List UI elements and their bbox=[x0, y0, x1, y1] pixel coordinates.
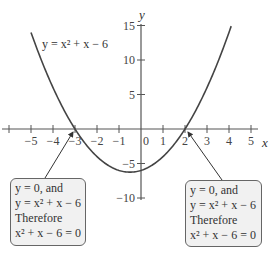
note-line: Therefore bbox=[190, 213, 257, 228]
note-line: y = 0, and bbox=[15, 181, 81, 196]
x-tick-label: 5 bbox=[248, 134, 254, 148]
y-tick-label: −10 bbox=[116, 191, 135, 205]
note-line: y = 0, and bbox=[190, 183, 257, 198]
note-line: Therefore bbox=[15, 211, 81, 226]
note-line: y = x² + x − 6 bbox=[190, 198, 257, 213]
curve-label: y = x² + x − 6 bbox=[42, 37, 108, 51]
y-tick-label: −5 bbox=[122, 157, 135, 171]
x-tick-label: 3 bbox=[204, 134, 210, 148]
note-line: x² + x − 6 = 0 bbox=[15, 226, 81, 241]
x-tick-label: −1 bbox=[113, 134, 126, 148]
x-tick-label: 2 bbox=[182, 134, 188, 148]
x-tick-label: −4 bbox=[47, 134, 60, 148]
x-tick-label: −5 bbox=[25, 134, 38, 148]
note-line: x² + x − 6 = 0 bbox=[190, 228, 257, 243]
note-line: y = x² + x − 6 bbox=[15, 196, 81, 211]
y-tick-label: 10 bbox=[123, 53, 135, 67]
y-tick-label: 5 bbox=[129, 88, 135, 102]
x-tick-label: 1 bbox=[160, 134, 166, 148]
x-tick-label: 4 bbox=[226, 134, 232, 148]
x-tick-label: −2 bbox=[91, 134, 104, 148]
right-annotation-box: y = 0, and y = x² + x − 6 Therefore x² +… bbox=[185, 180, 262, 247]
axes bbox=[2, 24, 258, 200]
x-tick-label: 0 bbox=[143, 134, 149, 148]
y-axis-label: y bbox=[137, 7, 145, 22]
y-tick-label: 15 bbox=[123, 19, 135, 33]
x-axis-label: x bbox=[261, 135, 268, 150]
left-annotation-box: y = 0, and y = x² + x − 6 Therefore x² +… bbox=[10, 178, 86, 246]
